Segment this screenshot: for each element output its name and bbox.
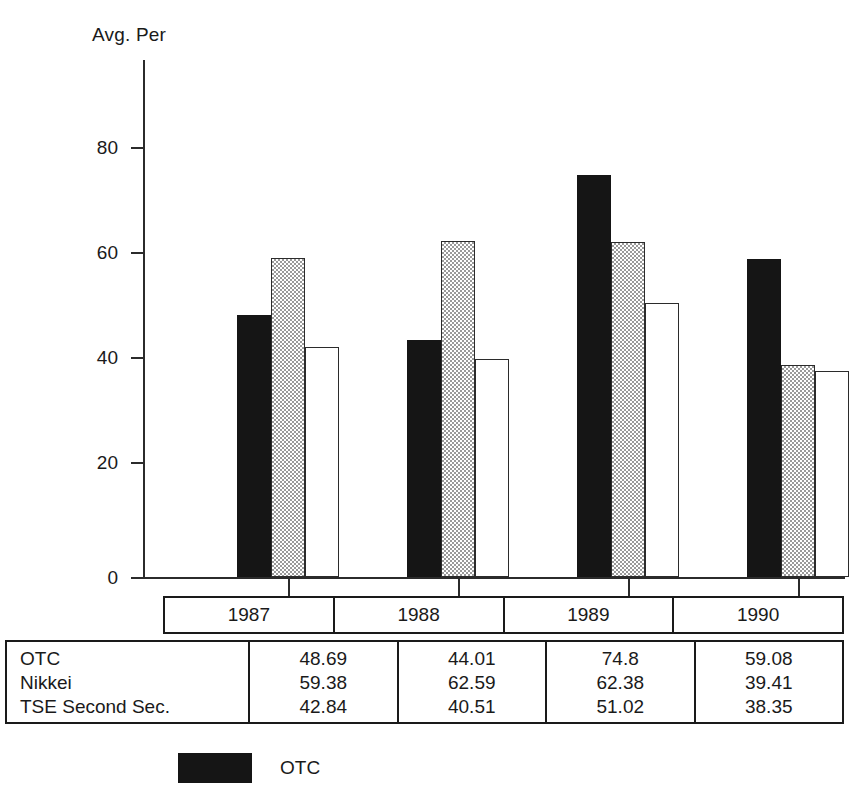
table-cell-1989-otc: 74.8: [547, 647, 694, 671]
table-cell-1989-tse: 51.02: [547, 695, 694, 719]
table-cell-1990-nikkei: 39.41: [696, 671, 843, 695]
bar-1987-tse: [305, 347, 339, 577]
table-row-label-column: OTC Nikkei TSE Second Sec.: [7, 642, 250, 722]
table-cell-1987-otc: 48.69: [250, 647, 397, 671]
table-cell-1989-nikkei: 62.38: [547, 671, 694, 695]
category-tick-1989: [628, 579, 630, 597]
year-header-cell-1988: 1988: [335, 598, 505, 632]
bar-1989-otc: [577, 175, 611, 577]
year-header-cell-1990: 1990: [674, 598, 842, 632]
data-table: OTC Nikkei TSE Second Sec. 48.69 59.38 4…: [5, 640, 844, 724]
table-column-1987: 48.69 59.38 42.84: [250, 642, 399, 722]
category-tick-1990: [798, 579, 800, 597]
table-cell-1990-otc: 59.08: [696, 647, 843, 671]
table-column-1990: 59.08 39.41 38.35: [696, 642, 843, 722]
bar-1988-otc: [407, 340, 441, 577]
table-row-label-tse: TSE Second Sec.: [20, 695, 248, 719]
table-cell-1987-tse: 42.84: [250, 695, 397, 719]
table-row-label-nikkei: Nikkei: [20, 671, 248, 695]
table-column-1989: 74.8 62.38 51.02: [547, 642, 696, 722]
bar-1988-tse: [475, 359, 509, 577]
year-header-cell-1989: 1989: [505, 598, 675, 632]
bar-1990-nikkei: [781, 365, 815, 577]
legend-label-otc: OTC: [280, 757, 320, 779]
table-cell-1988-tse: 40.51: [399, 695, 546, 719]
bar-1988-nikkei: [441, 241, 475, 577]
bar-1987-nikkei: [271, 258, 305, 577]
year-header-cell-1987: 1987: [165, 598, 335, 632]
legend: OTC: [178, 753, 320, 783]
bar-1989-nikkei: [611, 242, 645, 577]
year-header-row: 1987 1988 1989 1990: [163, 596, 844, 634]
bar-1990-tse: [815, 371, 849, 577]
table-value-columns: 48.69 59.38 42.84 44.01 62.59 40.51 74.8…: [250, 642, 842, 722]
table-column-1988: 44.01 62.59 40.51: [399, 642, 548, 722]
bar-1990-otc: [747, 259, 781, 577]
bar-chart-figure: Avg. Per 80 60 40 20 0 1987 1988 1989 19…: [0, 0, 857, 789]
bar-1989-tse: [645, 303, 679, 577]
table-row-label-otc: OTC: [20, 647, 248, 671]
table-cell-1988-otc: 44.01: [399, 647, 546, 671]
table-cell-1987-nikkei: 59.38: [250, 671, 397, 695]
table-cell-1988-nikkei: 62.59: [399, 671, 546, 695]
category-tick-1987: [288, 579, 290, 597]
bar-1987-otc: [237, 315, 271, 577]
table-cell-1990-tse: 38.35: [696, 695, 843, 719]
category-tick-1988: [458, 579, 460, 597]
legend-swatch-otc: [178, 753, 252, 783]
